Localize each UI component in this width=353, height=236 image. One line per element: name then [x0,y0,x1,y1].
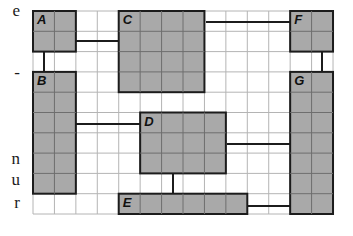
block-d: D [140,113,226,174]
block-label: C [123,12,133,27]
block-b: B [33,72,76,194]
block-label: F [294,12,303,27]
block-c: C [119,11,205,92]
block-g: G [290,72,333,214]
block-label: G [294,73,304,88]
floorplan-diagram: ACFBDGE [0,0,353,236]
block-label: B [37,73,46,88]
block-label: A [36,12,46,27]
block-label: D [144,114,154,129]
block-label: E [123,195,132,210]
block-f: F [290,11,333,52]
block-e: E [119,194,248,214]
block-a: A [33,11,76,52]
